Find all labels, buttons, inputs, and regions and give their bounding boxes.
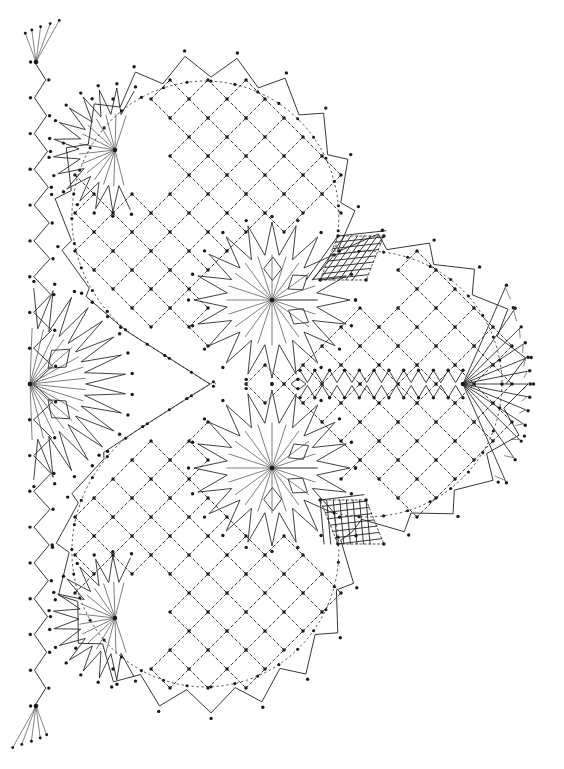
picot-guide-dot [333,253,336,256]
star-picot-dot [73,475,76,478]
picot-edge-dot [185,397,188,400]
picot-guide-dot [73,242,76,245]
picot-guide-dot [209,80,212,83]
braid-pin-dot [29,633,32,636]
star-picot-dot [296,546,299,549]
braid-pin-dot [28,454,31,457]
net-pin-dot [453,477,456,480]
cloth-corner-dot [336,542,339,545]
picot-guide-dot [120,109,123,112]
picot-edge-dot [306,678,309,681]
net-pin-dot [415,439,418,442]
net-pin-dot [396,382,399,385]
net-pin-dot [491,439,494,442]
net-pin-dot [92,534,95,537]
star-picot-dot [203,417,206,420]
picot-guide-dot [467,294,470,297]
net-pin-dot [339,363,342,366]
net-pin-dot [339,325,342,328]
picot-guide-dot [185,684,188,687]
star-picot-dot [221,231,224,234]
star-picot-dot [52,174,55,177]
lace-diagram-canvas [0,0,564,769]
picot-guide-dot [185,81,188,84]
centre-braid-dot [417,396,420,399]
net-pin-dot [168,610,171,613]
braid-pin-dot [29,168,32,171]
braid-fan-dot [24,32,27,35]
net-pin-dot [339,173,342,176]
star-picot-dot [115,683,118,686]
star-centre-dot [113,148,118,153]
braid-fan-dot [30,740,33,743]
star-picot-dot [296,378,299,381]
star-picot-dot [270,215,273,218]
net-pin-dot [187,667,190,670]
net-pin-dot [434,344,437,347]
picot-guide-dot [333,512,336,515]
picot-edge-dot [74,647,77,650]
star-picot-dot [245,387,248,390]
braid-pin-dot [50,579,53,582]
net-pin-dot [111,553,114,556]
net-pin-dot [244,154,247,157]
net-pin-dot [434,268,437,271]
star-picot-dot [93,553,96,556]
picot-edge-dot [324,106,327,109]
picot-guide-dot [120,656,123,659]
braid-pin-dot [48,651,51,654]
net-pin-dot [415,401,418,404]
net-pin-dot [92,496,95,499]
picot-guide-dot [73,523,76,526]
net-pin-dot [263,553,266,556]
net-pin-dot [301,135,304,138]
net-pin-dot [187,97,190,100]
star-picot-dot [118,433,121,436]
star-picot-dot [53,283,56,286]
star-picot-dot [319,534,322,537]
picot-guide-dot [233,682,236,685]
picot-guide-dot [296,648,299,651]
net-pin-dot [225,97,228,100]
net-pin-dot [225,553,228,556]
net-pin-dot [206,458,209,461]
net-pin-dot [491,363,494,366]
picot-guide-dot [168,408,171,411]
picot-guide-dot [481,314,484,317]
star-picot-dot [111,215,114,218]
braid-pin-dot [28,490,31,493]
net-pin-dot [168,78,171,81]
star-picot-dot [47,609,50,612]
star-centre-dot [270,466,275,471]
braid-pin-dot [52,472,55,475]
net-pin-dot [206,534,209,537]
braid-pin-dot [29,132,32,135]
picot-guide-dot [78,596,81,599]
picot-edge-dot [523,434,526,437]
centre-braid-dot [402,396,405,399]
centre-braid-dot [343,396,346,399]
star-picot-dot [54,119,57,122]
picot-guide-dot [209,685,212,688]
picot-guide-dot [333,180,336,183]
picot-guide-dot [124,437,127,440]
braid-pin-dot [52,293,55,296]
net-pin-dot [301,211,304,214]
star-picot-dot [245,546,248,549]
picot-edge-dot [355,586,358,589]
net-pin-dot [339,401,342,404]
picot-edge-dot [532,382,535,385]
star-picot-dot [53,482,56,485]
picot-guide-dot [146,343,149,346]
cloth-corner-dot [382,234,385,237]
braid-fan-dot [39,737,42,740]
picot-edge-dot [209,717,212,720]
net-pin-dot [149,553,152,556]
picot-edge-dot [163,354,166,357]
net-pin-dot [396,458,399,461]
page-background [0,0,564,769]
star-picot-dot [338,249,341,252]
point-fan-dot [529,382,532,385]
picot-guide-dot [492,335,495,338]
braid-pin-dot [28,561,31,564]
